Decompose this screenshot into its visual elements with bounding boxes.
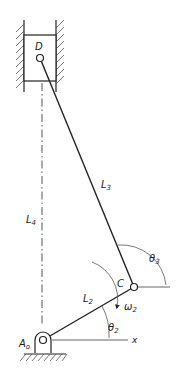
pin-joint-a0 — [40, 337, 47, 344]
omega2-arc — [92, 262, 118, 307]
link-l3 — [40, 58, 134, 287]
label-l2: L2 — [83, 293, 94, 306]
label-l3: L3 — [101, 179, 111, 192]
label-theta2: θ2 — [108, 322, 119, 335]
slider-guide-left-wall — [16, 20, 24, 92]
label-c: C — [117, 278, 124, 289]
slider-guide-right-wall — [56, 20, 64, 92]
label-l4: L4 — [26, 214, 36, 227]
label-theta3: θ3 — [149, 253, 160, 266]
pin-joint-d — [37, 55, 44, 62]
pin-joint-c — [131, 284, 138, 291]
label-x-axis: x — [131, 335, 138, 345]
label-d: D — [35, 41, 43, 52]
label-omega2: ω2 — [124, 301, 137, 314]
slider-crank-diagram: D C Ao L2 L3 L4 θ3 ω2 θ2 x — [0, 0, 180, 381]
label-a0: Ao — [18, 338, 30, 351]
